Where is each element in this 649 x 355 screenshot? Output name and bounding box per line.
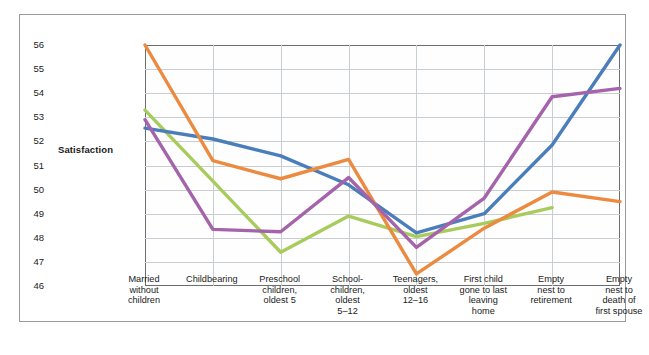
series-line-orange: [145, 45, 620, 274]
series-line-blue: [145, 45, 620, 233]
plot-area: [145, 45, 620, 286]
series-line-green: [145, 110, 552, 252]
series-line-purple: [145, 88, 620, 247]
x-axis-tick-label: Empty nest to death of first spouse: [579, 274, 649, 316]
y-axis-title: Satisfaction: [58, 144, 113, 155]
series-lines: [145, 45, 620, 286]
